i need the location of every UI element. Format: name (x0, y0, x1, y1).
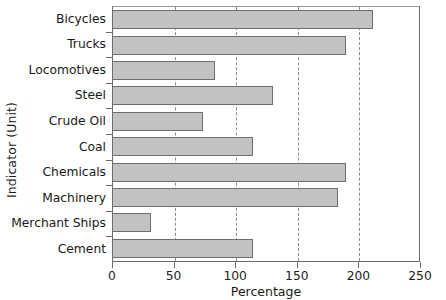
y-tick-label: Steel (22, 83, 110, 109)
bar-series (113, 7, 419, 261)
y-tick-label: Locomotives (22, 57, 110, 83)
x-tick-label: 50 (166, 268, 182, 285)
x-axis-title: Percentage (112, 284, 420, 299)
bar-steel (112, 86, 273, 105)
y-tick-label: Cement (22, 236, 110, 262)
plot-area (112, 6, 420, 262)
bar-chemicals (112, 163, 346, 182)
bar-crude-oil (112, 112, 203, 131)
bar-row (113, 159, 419, 184)
y-tick-label: Chemicals (22, 160, 110, 186)
x-axis-tick-labels: 050100150200250 (112, 268, 420, 285)
bar-row (113, 7, 419, 32)
y-tick-label: Trucks (22, 32, 110, 58)
x-tick-label: 150 (285, 268, 308, 285)
bar-chart: Indicator (Unit) Bicycles Trucks Locomot… (0, 0, 446, 300)
y-tick-label: Crude Oil (22, 108, 110, 134)
bar-row (113, 83, 419, 108)
x-tick-label: 250 (408, 268, 431, 285)
bar-row (113, 58, 419, 83)
bar-row (113, 236, 419, 261)
bar-row (113, 185, 419, 210)
y-tick-label: Machinery (22, 185, 110, 211)
bar-row (113, 109, 419, 134)
bar-locomotives (112, 61, 215, 80)
bar-trucks (112, 36, 346, 55)
x-tick-label: 200 (347, 268, 370, 285)
y-tick-label: Merchant Ships (22, 211, 110, 237)
bar-coal (112, 137, 253, 156)
bar-row (113, 134, 419, 159)
x-tick-label: 100 (223, 268, 246, 285)
bar-cement (112, 239, 253, 258)
y-axis-title: Indicator (Unit) (0, 0, 22, 300)
y-axis-tick-labels: Bicycles Trucks Locomotives Steel Crude … (22, 6, 110, 262)
bar-row (113, 210, 419, 235)
y-tick-label: Bicycles (22, 6, 110, 32)
x-tick-label: 0 (108, 268, 116, 285)
bar-bicycles (112, 10, 373, 29)
y-tick-label: Coal (22, 134, 110, 160)
bar-row (113, 32, 419, 57)
bar-machinery (112, 188, 338, 207)
bar-merchant-ships (112, 213, 151, 232)
